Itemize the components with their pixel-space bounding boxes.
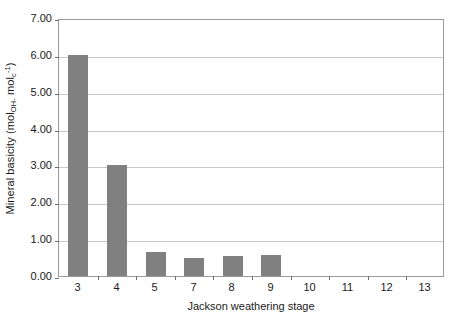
- x-tick-label: 9: [251, 281, 290, 293]
- x-tick-mark: [368, 276, 369, 280]
- x-axis-title: Jackson weathering stage: [58, 300, 444, 312]
- y-tick-label: 7.00: [16, 13, 52, 24]
- x-tick-mark: [136, 276, 137, 280]
- x-tick-mark: [98, 276, 99, 280]
- x-tick-label: 8: [212, 281, 251, 293]
- x-tick-label: 5: [135, 281, 174, 293]
- bar: [261, 255, 281, 276]
- x-tick-mark: [291, 276, 292, 280]
- y-tick-mark: [55, 278, 59, 279]
- x-tick-label: 12: [367, 281, 406, 293]
- y-axis-title-lead: Mineral basicity (mol: [4, 112, 16, 214]
- bar: [184, 258, 204, 276]
- x-tick-label: 11: [328, 281, 367, 293]
- bars-layer: [59, 20, 443, 276]
- x-tick-label: 4: [97, 281, 136, 293]
- y-tick-label: 4.00: [16, 124, 52, 135]
- y-axis-title-tail: ): [4, 62, 16, 66]
- x-axis-tick-labels: 34578910111213: [58, 281, 444, 295]
- bar-chart: Mineral basicity (molOH- molc-1) 7.006.0…: [0, 0, 467, 329]
- bar: [223, 256, 243, 276]
- plot-area: [58, 19, 444, 277]
- bar: [107, 165, 127, 276]
- y-axis-tick-labels: 7.006.005.004.003.002.001.000.00: [16, 0, 52, 329]
- x-tick-mark: [175, 276, 176, 280]
- bar: [146, 252, 166, 276]
- y-tick-label: 3.00: [16, 160, 52, 171]
- y-axis-title-mid: mol: [4, 77, 16, 98]
- x-tick-mark: [329, 276, 330, 280]
- y-tick-label: 5.00: [16, 87, 52, 98]
- x-tick-mark: [213, 276, 214, 280]
- x-tick-label: 3: [58, 281, 97, 293]
- y-tick-label: 2.00: [16, 197, 52, 208]
- x-tick-label: 10: [290, 281, 329, 293]
- x-tick-mark: [406, 276, 407, 280]
- x-tick-label: 13: [405, 281, 444, 293]
- y-tick-label: 1.00: [16, 234, 52, 245]
- x-tick-label: 7: [174, 281, 213, 293]
- x-tick-mark: [252, 276, 253, 280]
- y-tick-label: 6.00: [16, 50, 52, 61]
- y-tick-label: 0.00: [16, 271, 52, 282]
- y-axis-title-superscript: -1: [3, 66, 12, 73]
- bar: [68, 55, 88, 276]
